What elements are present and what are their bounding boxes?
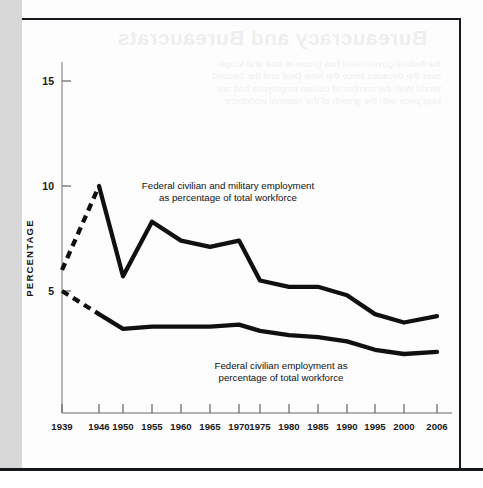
series-0-dashed-segment bbox=[62, 186, 99, 270]
x-tick-label: 1955 bbox=[141, 421, 163, 432]
x-tick-label: 1980 bbox=[278, 421, 299, 432]
y-tick-label: 15 bbox=[42, 75, 54, 87]
y-tick-label: 10 bbox=[42, 180, 54, 192]
x-tick-label: 2006 bbox=[426, 421, 447, 432]
x-tick-label: 1960 bbox=[170, 421, 191, 432]
x-tick-label: 1990 bbox=[336, 421, 357, 432]
series-1-solid-segment bbox=[99, 314, 437, 354]
x-tick-label: 1985 bbox=[307, 421, 329, 432]
y-tick-label: 5 bbox=[48, 285, 54, 297]
annotation-lower: Federal civilian employment as percentag… bbox=[215, 360, 348, 383]
y-axis: 51015 bbox=[42, 62, 71, 413]
series-layer bbox=[62, 186, 437, 354]
annotation-upper: Federal civilian and military employment… bbox=[142, 180, 315, 203]
x-tick-group: 1939194619501955196019651970197519801985… bbox=[51, 404, 447, 432]
x-tick-label: 1970 bbox=[228, 421, 249, 432]
series-0-solid-segment bbox=[99, 186, 437, 323]
chart-svg: 51015 1939194619501955196019651970197519… bbox=[0, 0, 483, 488]
x-tick-label: 1995 bbox=[364, 421, 386, 432]
x-axis: 1939194619501955196019651970197519801985… bbox=[51, 404, 452, 432]
series-1-dashed-segment bbox=[62, 291, 99, 314]
line-chart: 51015 1939194619501955196019651970197519… bbox=[0, 0, 483, 488]
x-tick-label: 1975 bbox=[249, 421, 271, 432]
y-tick-group: 51015 bbox=[42, 75, 71, 297]
y-axis-title: PERCENTAGE bbox=[24, 219, 35, 296]
x-tick-label: 2000 bbox=[393, 421, 414, 432]
annotation-lower-line1: Federal civilian employment as bbox=[215, 360, 348, 371]
x-tick-label: 1950 bbox=[112, 421, 133, 432]
x-tick-label: 1939 bbox=[51, 421, 72, 432]
annotation-upper-line1: Federal civilian and military employment bbox=[142, 180, 315, 191]
x-tick-label: 1965 bbox=[199, 421, 221, 432]
annotation-lower-line2: percentage of total workforce bbox=[219, 372, 344, 383]
annotation-upper-line2: as percentage of total workforce bbox=[159, 192, 297, 203]
x-tick-label: 1946 bbox=[88, 421, 109, 432]
